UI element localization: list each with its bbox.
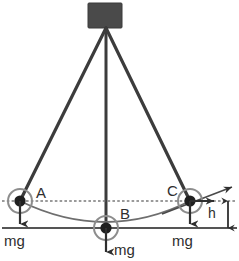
- string-to-mass-a: [20, 28, 106, 201]
- label-mass-c: C: [167, 183, 178, 198]
- label-mass-b: B: [120, 206, 130, 221]
- string-to-mass-c: [106, 28, 190, 201]
- label-weight-b: mg: [114, 242, 135, 257]
- label-mass-a: A: [36, 185, 46, 200]
- label-height-h: h: [208, 206, 216, 220]
- label-weight-c: mg: [172, 233, 193, 248]
- label-weight-a: mg: [4, 233, 25, 248]
- ceiling-block: [88, 3, 122, 28]
